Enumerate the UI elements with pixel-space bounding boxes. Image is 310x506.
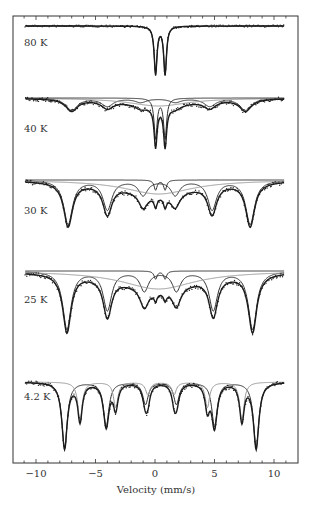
x-tick-label: 5 bbox=[211, 468, 217, 479]
plot-frame bbox=[13, 16, 298, 463]
x-axis-title: Velocity (mm/s) bbox=[116, 484, 195, 495]
x-tick-label: 0 bbox=[152, 468, 158, 479]
x-tick-label: 10 bbox=[268, 468, 281, 479]
temperature-label: 40 K bbox=[24, 123, 48, 134]
temperature-label: 80 K bbox=[24, 37, 48, 48]
mossbauer-spectra-chart: −10−50510 80 K40 K30 K25 K4.2 K Velocity… bbox=[0, 0, 310, 506]
temperature-label: 25 K bbox=[24, 294, 48, 305]
temperature-label: 30 K bbox=[24, 205, 48, 216]
x-tick-label: −10 bbox=[25, 468, 46, 479]
temperature-label: 4.2 K bbox=[24, 391, 51, 402]
x-tick-labels: −10−50510 bbox=[25, 468, 280, 479]
x-tick-label: −5 bbox=[88, 468, 103, 479]
